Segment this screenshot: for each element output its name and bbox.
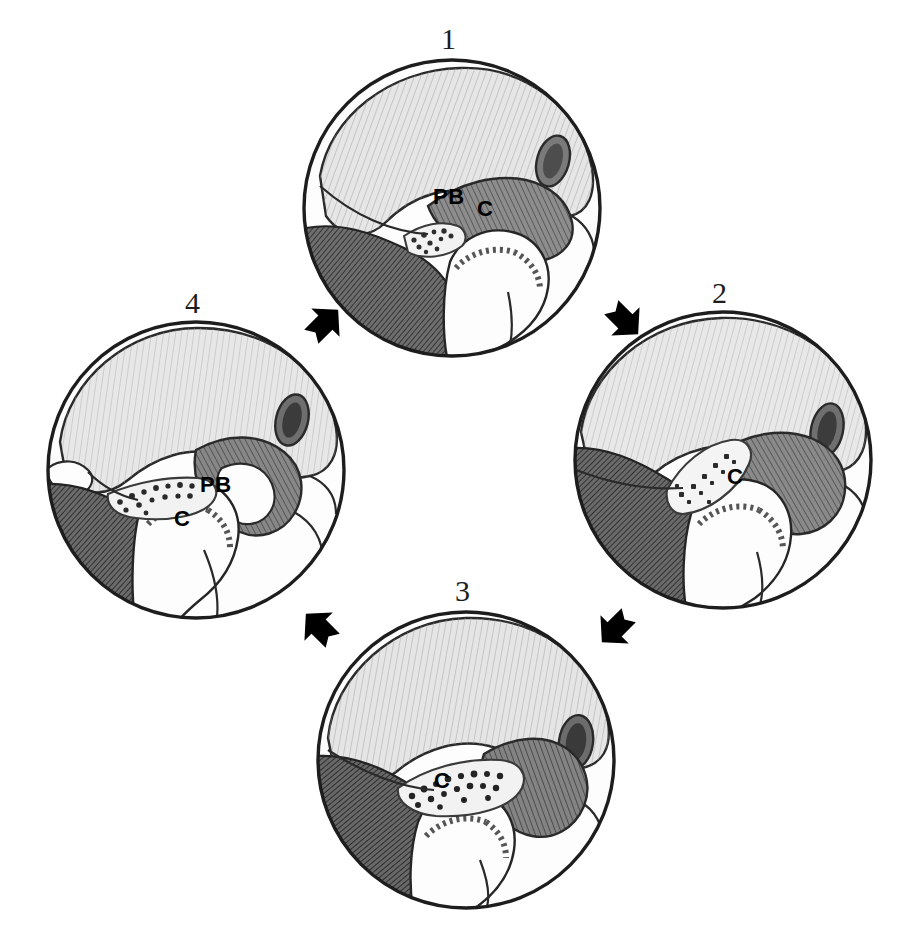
arrow-4-to-1 — [296, 296, 352, 356]
arrow-down-left-icon — [588, 600, 644, 656]
panel-1-label-c: C — [477, 198, 493, 220]
panel-4-label-c: C — [174, 508, 190, 530]
arrow-up-right-icon — [296, 296, 352, 352]
arrow-2-to-3 — [588, 600, 644, 660]
panel-2-number: 2 — [712, 278, 727, 308]
arrow-up-left-icon — [292, 600, 348, 656]
panel-2-label-c: C — [727, 466, 743, 488]
panel-1-label-pb: PB — [433, 186, 465, 208]
panel-4-label-pb: PB — [200, 474, 232, 496]
arrow-1-to-2 — [596, 292, 652, 352]
panel-2-illustration — [571, 308, 875, 612]
arrow-3-to-4 — [292, 600, 348, 660]
figure-root: 1 PB C — [0, 0, 900, 938]
panel-3[interactable] — [314, 608, 618, 912]
panel-2[interactable] — [571, 308, 875, 612]
panel-3-number: 3 — [455, 576, 470, 606]
panel-4-illustration — [44, 318, 348, 622]
arrow-down-right-icon — [596, 292, 652, 348]
panel-4[interactable] — [44, 318, 348, 622]
panel-3-label-c: C — [434, 770, 450, 792]
panel-1-number: 1 — [441, 24, 456, 54]
panel-4-number: 4 — [185, 288, 200, 318]
panel-3-illustration — [314, 608, 618, 912]
